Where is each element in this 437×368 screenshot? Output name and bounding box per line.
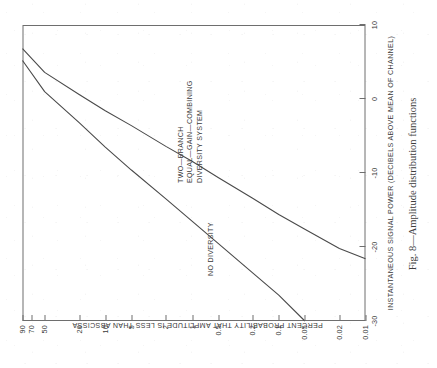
x-tick-label: 10 [369, 21, 378, 29]
y-tick-label: 0.02 [334, 325, 343, 355]
y-tick-label: 90 [18, 325, 27, 355]
x-tick-label: -30 [369, 316, 378, 327]
y-tick-label: 5 [126, 325, 135, 355]
y-tick-label: 1 [187, 325, 196, 355]
x-tick-label: -10 [369, 168, 378, 179]
figure-caption: Fig. 8—Amplitude distribution functions [406, 0, 417, 368]
y-tick-label: 0.5 [213, 325, 222, 355]
scanned-figure-page: -30-20-10010 90705020105210.50.20.10.050… [0, 0, 437, 368]
figure-upright-container: -30-20-10010 90705020105210.50.20.10.050… [0, 0, 437, 368]
x-tick-label: -20 [369, 242, 378, 253]
x-tick-mark [359, 24, 365, 25]
x-tick-mark [359, 98, 365, 99]
y-tick-label: 2 [161, 325, 170, 355]
x-tick-mark [359, 172, 365, 173]
y-tick-label: 10 [100, 325, 109, 355]
y-tick-label: 0.2 [248, 325, 257, 355]
y-tick-label: 0.1 [274, 325, 283, 355]
annotation-no-diversity: NO DIVERSITY [206, 222, 215, 276]
annotation-two-branch-diversity: TWO—BRANCH EQUAL—GAIN—COMBINING DIVERSIT… [176, 80, 204, 183]
annotation-two-branch-line-2: EQUAL—GAIN—COMBINING [185, 80, 194, 183]
y-tick-label: 0.05 [300, 325, 309, 355]
y-tick-label: 70 [27, 325, 36, 355]
x-tick-mark [359, 246, 365, 247]
curve-no-diversity [22, 61, 304, 321]
annotation-two-branch-line-3: DIVERSITY SYSTEM [195, 80, 204, 183]
annotation-two-branch-line-1: TWO—BRANCH [176, 80, 185, 183]
x-tick-label: 0 [369, 97, 378, 101]
x-axis-title: INSTANTANEOUS SIGNAL POWER (DECIBELS ABO… [386, 25, 394, 321]
y-tick-label: 0.01 [361, 325, 370, 355]
y-tick-mark [22, 315, 23, 321]
annotation-no-diversity-line-1: NO DIVERSITY [206, 222, 215, 276]
y-tick-label: 20 [74, 325, 83, 355]
y-axis-title: PERCENT PROBABILITY THAT AMPLITUDE IS LE… [26, 321, 369, 329]
y-tick-label: 50 [40, 325, 49, 355]
figure-area: -30-20-10010 90705020105210.50.20.10.050… [0, 0, 437, 368]
